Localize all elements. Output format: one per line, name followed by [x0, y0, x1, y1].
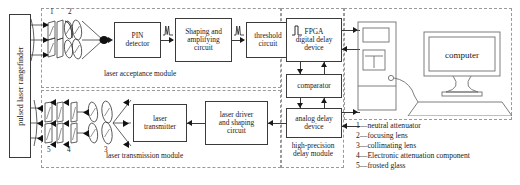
focal-spot-icon: [100, 36, 109, 44]
computer-illustration: computer: [346, 20, 512, 116]
analog-delay-line2: device: [304, 123, 323, 131]
optics-number-2: 2: [68, 8, 72, 16]
pin-detector-line2: detector: [126, 40, 150, 48]
optics-number-4: 4: [67, 146, 71, 154]
legend-item-5: 5—frosted glass: [356, 161, 470, 171]
block-laser-transmitter: laser transmitter: [133, 104, 187, 142]
fpga-text-wrapper: FPGA digital delay device: [286, 18, 342, 62]
optics-number-1: 1: [50, 8, 54, 16]
acceptance-optics-assembly: [31, 16, 121, 64]
pulsed-laser-rangefinder: pulsed laser rangefinder: [9, 14, 31, 158]
computer-screen-label: computer: [445, 50, 479, 60]
block-threshold-circuit: threshold circuit: [246, 22, 290, 58]
block-laser-driver-and-shaping-circuit: laser driver and shaping circuit: [205, 101, 268, 145]
legend-text-2: focusing lens: [367, 131, 407, 140]
shaping-line3: circuit: [194, 44, 213, 52]
legend-item-3: 3—collimating lens: [356, 141, 470, 151]
arrow-comparator-to-fpga: [321, 62, 327, 67]
block-shaping-amplifying-circuit: Shaping and amplifying circuit: [175, 18, 232, 62]
block-pin-detector: PIN detector: [114, 22, 161, 58]
legend-item-1: 1—neutral attenuator: [356, 121, 470, 131]
block-comparator: comparator: [286, 74, 342, 98]
system-block-diagram: pulsed laser rangefinder: [0, 0, 520, 185]
arrow-driver-to-transmitter: [187, 120, 192, 126]
block-analog-delay-device: analog delay device: [286, 108, 342, 138]
optics-number-3: 3: [104, 146, 108, 154]
laser-transmission-module-label: laser transmission module: [106, 152, 183, 160]
laser-transmitter-line2: transmitter: [144, 123, 176, 131]
transmission-optics-assembly: [31, 97, 135, 149]
delay-module-line2: delay module: [293, 149, 333, 158]
laser-acceptance-module-label: laser acceptance module: [104, 70, 176, 78]
arrow-pin-to-shaping: [169, 37, 174, 43]
legend-text-3: collimating lens: [367, 141, 416, 150]
fpga-line3: device: [304, 44, 323, 52]
high-precision-delay-module-label: high-precision delay module: [283, 142, 343, 158]
legend-item-4: 4—Electronic attenuation component: [356, 151, 470, 161]
arrow-analog-to-laser-driver: [268, 120, 273, 126]
arrow-shaping-to-threshold: [240, 37, 245, 43]
threshold-line2: circuit: [259, 40, 278, 48]
pulse-waveform-icon-1: [162, 24, 174, 36]
legend-item-2: 2—focusing lens: [356, 131, 470, 141]
legend-text-4: Electronic attenuation component: [367, 151, 469, 160]
pulsed-laser-rangefinder-label: pulsed laser rangefinder: [16, 46, 25, 125]
legend: 1—neutral attenuator 2—focusing lens 3—c…: [356, 121, 470, 171]
optics-number-5: 5: [47, 146, 51, 154]
legend-text-1: neutral attenuator: [367, 121, 420, 130]
arrow-computer-to-analog: [342, 123, 347, 129]
comparator-label: comparator: [297, 82, 331, 90]
pulse-waveform-icon-2: [233, 24, 245, 36]
legend-text-5: frosted glass: [367, 161, 405, 170]
laser-driver-line3: circuit: [227, 127, 246, 135]
arrow-analog-to-comparator: [321, 98, 327, 103]
